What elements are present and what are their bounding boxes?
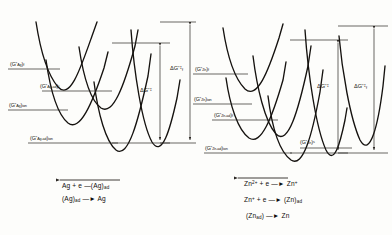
zn-delta-g-label: ΔG*‡ [317, 84, 329, 90]
reaction-zn-incorporation: (Znad) —► Zn [246, 213, 290, 220]
ag-curve-3 [79, 30, 138, 109]
ag-curve-1 [36, 22, 97, 90]
figure-canvas: (G*Ag)f (G*Ag-ad)f (G*Ag)ion (G*Ag-ad)io… [0, 0, 392, 235]
reaction-zn-first-electron: Zn2+ + e —► Zn+ [244, 181, 298, 188]
ag-ad-final-state-label: (G*Ag-ad)f [40, 84, 59, 90]
ag-final-state-label: (G*Ag)f [10, 62, 24, 68]
zn-curve-3 [253, 46, 311, 136]
zn-curve-6 [339, 36, 385, 145]
zn-ion-state-label: (G*Zn)ion [194, 97, 212, 103]
zn-ad-ion-state-label: (G*Zn-ad)ion [205, 146, 228, 152]
ag-delta-markers [112, 22, 196, 143]
reaction-zn-second-electron: Zn+ + e —► (Zn)ad [244, 197, 302, 204]
zn-solid-state-label: (G*Zn)s [300, 140, 315, 146]
zn-delta-g-forward-label: ΔG*‡f [354, 84, 367, 90]
ag-ad-ion-state-label: (G*Ag-ad)ion [30, 136, 53, 142]
zn-final-state-label: (G*Zn)f [195, 67, 209, 73]
ag-ion-state-label: (G*Ag)ion [9, 103, 27, 109]
energy-profile-svg [0, 0, 392, 235]
reaction-ag-incorporation: (Ag)ad —► Ag [62, 196, 106, 203]
ag-curve-4 [94, 54, 151, 151]
ag-delta-g-label: ΔG*‡ [140, 88, 152, 94]
reaction-ag-reduction: Ag + e —(Ag)ad [62, 183, 109, 190]
ag-curve-5 [131, 30, 180, 147]
ag-delta-g-forward-label: ΔG*‡f [170, 66, 183, 72]
zn-ad-final-state-label: (G*Zn-ad)f [214, 113, 233, 119]
